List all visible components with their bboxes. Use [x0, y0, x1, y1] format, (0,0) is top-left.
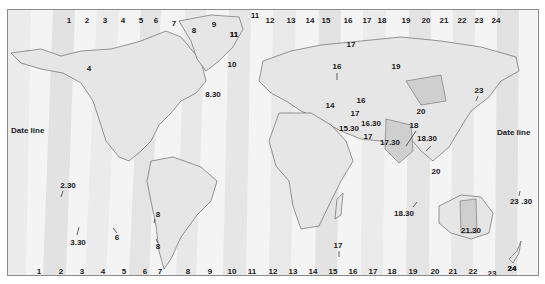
bottom-zone-number: 17 [369, 268, 378, 276]
region-label: 11 [230, 31, 238, 39]
region-label: 15.30 [339, 125, 359, 133]
bottom-zone-number: 22 [469, 268, 478, 276]
bottom-zone-number: 11 [248, 268, 256, 276]
region-label: 16 [333, 63, 342, 71]
region-label: 23 [475, 87, 484, 95]
region-label: 16 [357, 97, 366, 105]
top-zone-number: 6 [154, 17, 158, 25]
region-label: 8 [156, 243, 160, 251]
top-zone-number: 16 [344, 17, 353, 25]
region-label: 17 [351, 110, 360, 118]
top-zone-number: 14 [306, 17, 315, 25]
region-label: 18.30 [417, 135, 437, 143]
region-label: 19 [392, 63, 401, 71]
region-label: 17 [334, 242, 343, 250]
bottom-zone-number: 5 [122, 268, 126, 276]
region-label: 17 [347, 41, 356, 49]
bottom-zone-number: 16 [349, 268, 358, 276]
region-label: 18 [410, 122, 419, 130]
top-zone-number: 15 [322, 17, 331, 25]
top-zone-number: 3 [103, 17, 107, 25]
top-zone-number: 18 [378, 17, 387, 25]
region-label: 8 [156, 211, 160, 219]
top-zone-number: 7 [172, 20, 176, 28]
bottom-zone-number: 14 [309, 268, 318, 276]
top-zone-number: 12 [266, 17, 275, 25]
bottom-zone-number: 15 [329, 268, 338, 276]
bottom-zone-number: 3 [80, 268, 84, 276]
region-label: 3.30 [70, 239, 86, 247]
date-line-label-right: Date line [497, 128, 530, 137]
bottom-zone-number: 13 [289, 268, 298, 276]
region-label: 2.30 [60, 182, 76, 190]
bottom-zone-number: 6 [143, 268, 147, 276]
region-label: 20 [432, 168, 441, 176]
top-zone-number: 11 [251, 12, 259, 20]
bottom-zone-number: 7 [158, 268, 162, 276]
bottom-zone-number: 20 [431, 268, 440, 276]
bottom-zone-number: 12 [269, 268, 278, 276]
top-zone-number: 23 [475, 17, 484, 25]
top-zone-number: 4 [121, 17, 125, 25]
top-zone-number: 2 [85, 17, 89, 25]
region-label: 20 [417, 108, 426, 116]
top-zone-number: 21 [440, 17, 449, 25]
top-zone-number: 8 [192, 27, 196, 35]
top-zone-number: 1 [67, 17, 71, 25]
bottom-zone-number: 9 [208, 268, 212, 276]
top-zone-number: 20 [422, 17, 431, 25]
map-graphic [8, 10, 538, 275]
top-zone-number: 5 [139, 17, 143, 25]
top-zone-number: 9 [212, 21, 216, 29]
bottom-zone-number: 19 [409, 268, 418, 276]
top-zone-number: 22 [458, 17, 467, 25]
date-line-label-left: Date line [11, 126, 44, 135]
bottom-zone-number: 18 [388, 268, 397, 276]
region-label: 10 [228, 61, 237, 69]
region-label: 16.30 [361, 120, 381, 128]
region-label: 14 [326, 102, 335, 110]
bottom-zone-number: 21 [449, 268, 458, 276]
bottom-zone-number: 23 [488, 270, 497, 276]
bottom-zone-number: 4 [101, 268, 105, 276]
region-label: 17.30 [380, 139, 400, 147]
bottom-zone-number: 1 [37, 268, 41, 276]
region-label: 24 [508, 265, 517, 273]
top-zone-number: 17 [363, 17, 372, 25]
world-time-zone-map: Date line Date line 1 2 3 4 5 6 7 8 9 11… [7, 9, 539, 276]
region-label: 4 [87, 65, 91, 73]
bottom-zone-number: 10 [228, 268, 237, 276]
region-label: 18.30 [394, 210, 414, 218]
top-zone-number: 13 [287, 17, 296, 25]
region-label: 21.30 [461, 227, 481, 235]
region-label: 8.30 [205, 91, 221, 99]
region-label: 23 .30 [510, 198, 532, 206]
region-label: 6 [115, 234, 119, 242]
region-label: 17 [364, 133, 373, 141]
bottom-zone-number: 8 [186, 268, 190, 276]
bottom-zone-number: 2 [59, 268, 63, 276]
top-zone-number: 19 [402, 17, 411, 25]
top-zone-number: 24 [492, 17, 501, 25]
